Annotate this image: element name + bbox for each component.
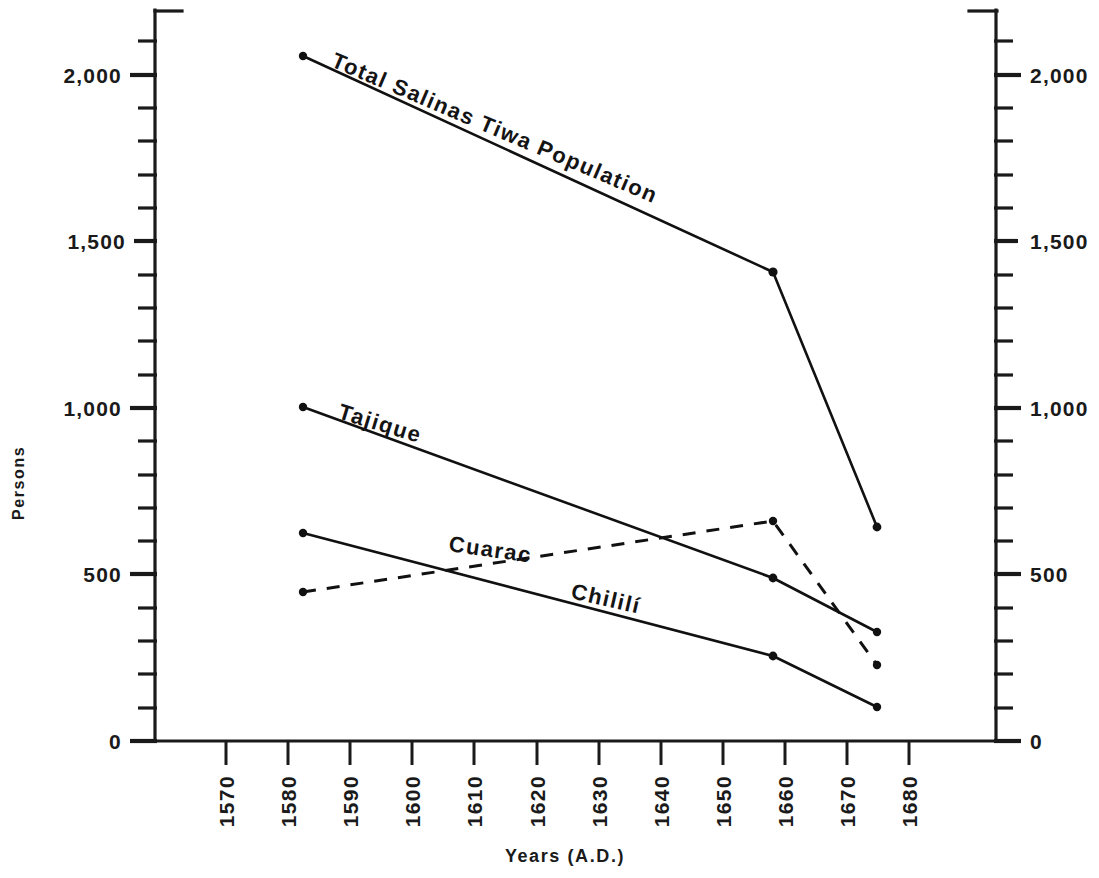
data-point [873,703,881,711]
x-axis-label-1600: 1600 [401,775,424,827]
series-chilili: Chililí [299,529,881,711]
series-total-salinas-tiwa-population: Total Salinas Tiwa Population [299,48,882,532]
data-point [769,574,778,583]
data-point [299,52,307,60]
left-minor-ticks [138,41,157,708]
x-axis-title: Years (A.D.) [505,846,625,866]
y-axis-right-label-2000: 2,000 [1030,64,1089,87]
data-point [873,661,881,669]
y-axis-right-label-500: 500 [1030,563,1069,586]
left-axis [155,10,182,741]
chart-figure: 0 500 1,000 1,500 2,000 [0,0,1099,878]
y-axis-right-label-1500: 1,500 [1030,230,1089,253]
y-axis-label-1000: 1,000 [63,397,122,420]
right-axis [969,10,997,741]
x-axis-label-1610: 1610 [463,775,486,827]
x-axis-label-1680: 1680 [898,775,921,827]
series-label-total: Total Salinas Tiwa Population [328,48,662,209]
x-axis-label-1570: 1570 [215,775,238,827]
y-axis-title: Persons [10,446,27,520]
right-minor-ticks [994,41,1013,708]
x-axis-label-1630: 1630 [588,775,611,827]
x-ticks [226,741,909,765]
series-label-cuarac: Cuarac [447,531,533,567]
data-point [769,517,777,525]
x-axis-label-1580: 1580 [277,775,300,827]
data-point [873,523,882,532]
y-axis-label-500: 500 [83,563,122,586]
y-axis-label-1500: 1,500 [67,230,126,253]
x-axis-label-1650: 1650 [712,775,735,827]
x-axis-label-1590: 1590 [339,775,362,827]
data-point [873,628,881,636]
population-line-chart: 0 500 1,000 1,500 2,000 [0,0,1099,878]
series-label-tajique: Tajique [336,399,425,448]
data-point [768,267,777,276]
data-point [299,529,307,537]
x-axis-label-1670: 1670 [836,775,859,827]
x-axis-label-1620: 1620 [526,775,549,827]
y-axis-right-label-0: 0 [1030,730,1043,753]
series-line-chilili [303,533,877,707]
data-point [299,588,307,596]
series-line-total [303,56,877,527]
data-point [299,403,307,411]
x-axis-label-1640: 1640 [650,775,673,827]
x-tick-labels: 1570 1580 1590 1600 1610 1620 1630 1640 … [215,775,921,827]
y-axis-label-2000: 2,000 [63,64,122,87]
x-axis-label-1660: 1660 [774,775,797,827]
data-point [769,652,778,661]
y-axis-label-0: 0 [109,730,122,753]
y-axis-right-label-1000: 1,000 [1030,397,1089,420]
